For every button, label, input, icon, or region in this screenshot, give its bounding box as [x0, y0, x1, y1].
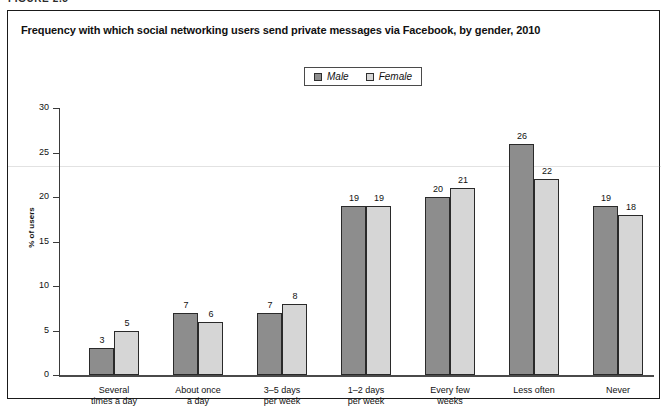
- y-axis-tick-label: 15: [21, 236, 49, 246]
- bar-female[interactable]: [450, 188, 475, 375]
- y-axis-tick: [53, 331, 60, 332]
- bar-group: 35: [89, 108, 139, 375]
- figure-frame: Frequency with which social networking u…: [7, 10, 660, 399]
- y-axis-tick-label: 25: [21, 147, 49, 157]
- bar-female[interactable]: [366, 206, 391, 375]
- bar-value-label: 19: [341, 193, 367, 203]
- bar-value-label: 8: [282, 291, 308, 301]
- bar-value-label: 19: [593, 193, 619, 203]
- x-axis-category-label-line: Every few: [402, 385, 498, 396]
- bar-male[interactable]: [257, 313, 282, 375]
- x-axis-category-label-line: times a day: [66, 396, 162, 407]
- bar-group: 1918: [593, 108, 643, 375]
- y-axis-title: % of users: [27, 193, 36, 263]
- plot-area: % of users 051015202530 3576781919202126…: [8, 11, 661, 400]
- x-axis-category-label-line: Several: [66, 385, 162, 396]
- bar-group: 1919: [341, 108, 391, 375]
- bar-value-label: 18: [618, 202, 644, 212]
- bar-value-label: 21: [450, 175, 476, 185]
- x-axis-category-label-line: 3–5 days: [234, 385, 330, 396]
- x-axis-category-label-line: Never: [570, 385, 666, 396]
- y-axis-tick-label: 10: [21, 280, 49, 290]
- y-axis-tick: [53, 153, 60, 154]
- bar-female[interactable]: [282, 304, 307, 375]
- x-axis-category-label: Every fewweeks: [402, 385, 498, 407]
- bar-male[interactable]: [509, 144, 534, 375]
- y-axis-tick-label: 20: [21, 191, 49, 201]
- x-axis-category-label-line: a day: [150, 396, 246, 407]
- bar-value-label: 7: [257, 300, 283, 310]
- y-axis-tick: [53, 375, 60, 376]
- y-axis-tick: [53, 242, 60, 243]
- x-axis-category-label: About oncea day: [150, 385, 246, 407]
- y-axis-tick-label: 5: [21, 325, 49, 335]
- bar-value-label: 6: [198, 309, 224, 319]
- x-axis-category-label-line: About once: [150, 385, 246, 396]
- x-axis-category-label-line: weeks: [402, 396, 498, 407]
- bar-value-label: 7: [173, 300, 199, 310]
- bar-female[interactable]: [198, 322, 223, 375]
- bar-female[interactable]: [114, 331, 139, 376]
- bar-group: 76: [173, 108, 223, 375]
- x-axis-category-label-line: Less often: [486, 385, 582, 396]
- bar-value-label: 3: [89, 335, 115, 345]
- bar-value-label: 22: [534, 166, 560, 176]
- x-axis-category-label: 3–5 daysper week: [234, 385, 330, 407]
- bar-group: 78: [257, 108, 307, 375]
- x-axis-category-label-line: per week: [234, 396, 330, 407]
- x-axis-category-label: Less often: [486, 385, 582, 396]
- x-axis-category-label-line: 1–2 days: [318, 385, 414, 396]
- y-axis-tick: [53, 197, 60, 198]
- bar-male[interactable]: [341, 206, 366, 375]
- bars-layer: 3576781919202126221918: [60, 108, 654, 375]
- figure-label: FIGURE 2.5: [8, 0, 68, 4]
- bar-value-label: 26: [509, 131, 535, 141]
- bar-male[interactable]: [425, 197, 450, 375]
- bar-value-label: 5: [114, 318, 140, 328]
- bar-group: 2021: [425, 108, 475, 375]
- bar-value-label: 20: [425, 184, 451, 194]
- bar-female[interactable]: [618, 215, 643, 375]
- y-axis-tick-label: 30: [21, 102, 49, 112]
- x-axis-category-label: Never: [570, 385, 666, 396]
- bar-male[interactable]: [173, 313, 198, 375]
- x-axis-category-label-line: per week: [318, 396, 414, 407]
- x-axis-line: [59, 375, 654, 377]
- y-axis-tick-label: 0: [21, 369, 49, 379]
- y-axis-tick: [53, 286, 60, 287]
- bar-value-label: 19: [366, 193, 392, 203]
- x-axis-category-label: Severaltimes a day: [66, 385, 162, 407]
- x-axis-category-label: 1–2 daysper week: [318, 385, 414, 407]
- bar-female[interactable]: [534, 179, 559, 375]
- bar-male[interactable]: [89, 348, 114, 375]
- bar-group: 2622: [509, 108, 559, 375]
- y-axis-tick: [53, 108, 60, 109]
- bar-male[interactable]: [593, 206, 618, 375]
